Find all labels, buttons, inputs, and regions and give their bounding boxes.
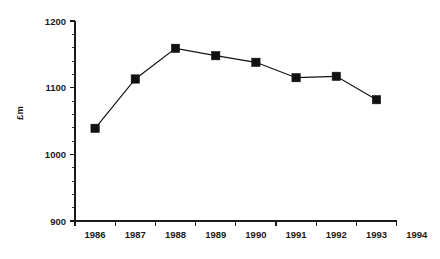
data-point-marker xyxy=(171,44,179,52)
data-point-marker xyxy=(372,95,380,103)
data-point-markers xyxy=(91,44,381,132)
x-tick-label: 1993 xyxy=(366,229,387,240)
data-point-marker xyxy=(252,58,260,66)
x-tick-label: 1990 xyxy=(245,229,266,240)
data-point-marker xyxy=(131,75,139,83)
data-point-marker xyxy=(292,73,300,81)
data-point-marker xyxy=(91,124,99,132)
data-series-line xyxy=(95,48,376,128)
line-chart-plot: 900100011001200 198619871988198919901991… xyxy=(0,0,440,259)
x-tick-label: 1989 xyxy=(205,229,226,240)
x-tick-label: 1987 xyxy=(125,229,146,240)
x-axis-tick-labels: 198619871988198919901991199219931994 xyxy=(85,229,428,240)
x-tick-label: 1992 xyxy=(326,229,347,240)
x-axis-ticks xyxy=(75,221,397,226)
data-point-marker xyxy=(212,51,220,59)
x-tick-label: 1991 xyxy=(286,229,308,240)
y-tick-label: 1100 xyxy=(45,82,66,93)
y-tick-label: 1000 xyxy=(45,149,66,160)
data-point-marker xyxy=(332,72,340,80)
y-axis-title: £m xyxy=(14,106,25,120)
y-axis-title-text: £m xyxy=(14,106,25,120)
y-axis-ticks xyxy=(70,21,75,221)
series-line-path xyxy=(95,48,376,128)
y-tick-label: 1200 xyxy=(45,16,66,27)
x-tick-label: 1988 xyxy=(165,229,186,240)
x-tick-label: 1994 xyxy=(406,229,428,240)
y-tick-label: 900 xyxy=(50,216,66,227)
chart-container: 900100011001200 198619871988198919901991… xyxy=(0,0,440,259)
y-axis-tick-labels: 900100011001200 xyxy=(45,16,66,227)
x-tick-label: 1986 xyxy=(85,229,106,240)
chart-axes xyxy=(75,21,397,221)
